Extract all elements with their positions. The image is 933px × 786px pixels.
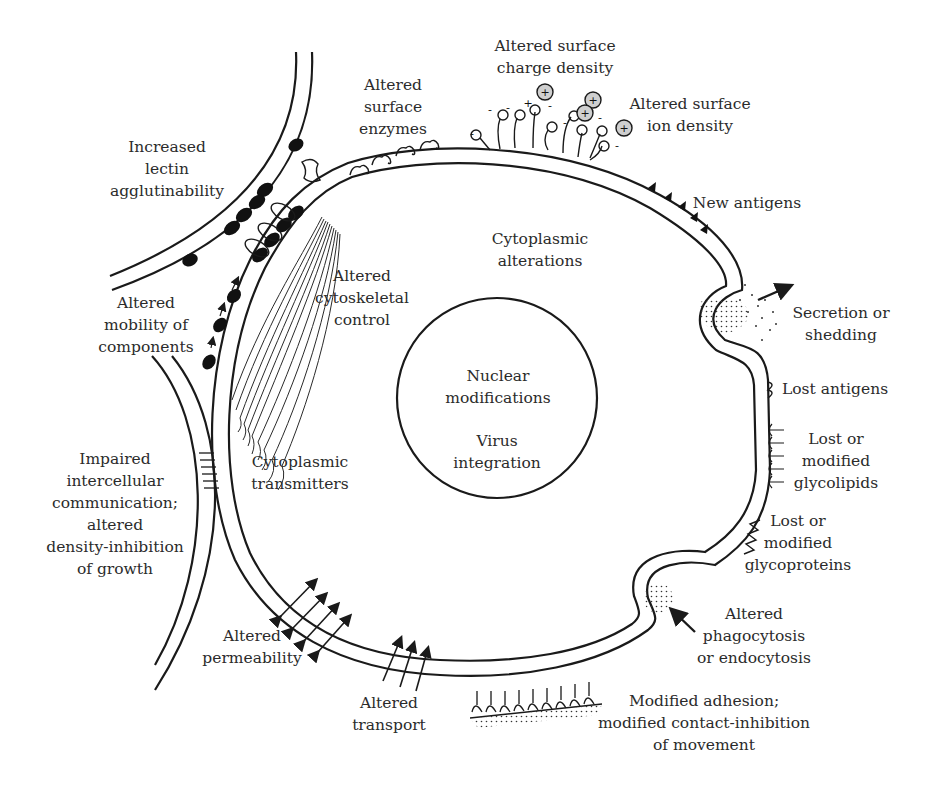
secretion-vesicle <box>699 298 750 334</box>
svg-text:+: + <box>540 86 549 99</box>
label-virus-integration: Virus integration <box>453 430 540 474</box>
label-altered-transport: Altered transport <box>352 692 426 736</box>
label-altered-cytoskeletal-control: Altered cytoskeletal control <box>315 265 409 331</box>
label-lost-or-modified-glycoproteins: Lost or modified glycoproteins <box>745 510 852 576</box>
svg-text:-: - <box>615 139 619 152</box>
svg-text:-: - <box>488 103 492 116</box>
svg-text:-: - <box>563 116 567 129</box>
label-modified-adhesion: Modified adhesion; modified contact-inhi… <box>598 690 810 756</box>
svg-text:-: - <box>470 127 474 140</box>
transport-arrows <box>383 638 428 691</box>
endocytic-vesicle <box>643 583 673 613</box>
glycolipids <box>769 424 784 488</box>
svg-text:+: + <box>619 122 628 135</box>
mobility-arrows <box>211 278 238 348</box>
label-cytoplasmic-alterations: Cytoplasmic alterations <box>492 228 589 272</box>
secretion-arrow <box>758 286 790 300</box>
label-altered-mobility-of-components: Altered mobility of components <box>98 292 193 358</box>
cytoskeletal-fibers <box>232 217 340 490</box>
svg-text:-: - <box>548 99 552 112</box>
label-altered-surface-ion-density: Altered surface ion density <box>629 93 750 137</box>
svg-text:+: + <box>588 94 597 107</box>
label-impaired-intercellular-communication: Impaired intercellular communication; al… <box>46 448 183 580</box>
label-lost-or-modified-glycolipids: Lost or modified glycolipids <box>794 428 878 494</box>
label-cytoplasmic-transmitters: Cytoplasmic transmitters <box>251 451 348 495</box>
label-new-antigens: New antigens <box>693 192 801 214</box>
label-lost-antigens: Lost antigens <box>782 378 888 400</box>
endocytosis-arrow <box>672 610 695 632</box>
label-secretion-or-shedding: Secretion or shedding <box>792 302 889 346</box>
label-altered-phagocytosis-or-endocytosis: Altered phagocytosis or endocytosis <box>697 603 811 669</box>
svg-text:+: + <box>523 97 532 110</box>
label-nuclear-modifications: Nuclear modifications <box>445 365 551 409</box>
svg-text:-: - <box>506 101 510 114</box>
label-increased-lectin-agglutinability: Increased lectin agglutinability <box>110 136 224 202</box>
svg-text:-: - <box>598 111 602 124</box>
label-altered-permeability: Altered permeability <box>202 625 301 669</box>
label-altered-surface-enzymes: Altered surface enzymes <box>359 74 427 140</box>
label-altered-surface-charge-density: Altered surface charge density <box>494 35 615 79</box>
svg-text:+: + <box>580 107 589 120</box>
